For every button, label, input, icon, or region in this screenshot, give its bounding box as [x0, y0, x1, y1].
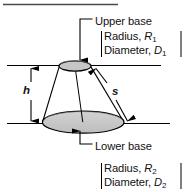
- upper-radius-spec: Radius, R1: [104, 30, 166, 44]
- upper-base-label: Upper base: [95, 15, 152, 28]
- slant-height-label: s: [112, 85, 118, 98]
- lower-diameter-spec: Diameter, D2: [104, 176, 166, 190]
- lower-base-ellipse: [42, 111, 124, 133]
- lower-radius-spec: Radius, R2: [104, 162, 166, 176]
- upper-base-ellipse: [59, 61, 91, 72]
- upper-diameter-spec: Diameter, D1: [104, 44, 166, 58]
- height-label: h: [23, 84, 30, 97]
- lower-diameter-symbol: D: [154, 176, 162, 188]
- upper-diameter-subscript: 1: [162, 49, 166, 58]
- upper-diameter-symbol: D: [154, 44, 162, 56]
- lower-diameter-subscript: 2: [162, 181, 166, 190]
- upper-radius-text: Radius,: [104, 30, 141, 42]
- upper-radius-subscript: 1: [152, 35, 156, 44]
- frustum-figure: Upper base Lower base Radius, R1 Diamete…: [0, 0, 190, 192]
- lower-base-label: Lower base: [95, 140, 152, 153]
- upper-base-specs: Radius, R1 Diameter, D1: [104, 30, 166, 57]
- lower-base-specs: Radius, R2 Diameter, D2: [104, 162, 166, 189]
- lower-radius-text: Radius,: [104, 162, 141, 174]
- upper-base-leader: [80, 19, 93, 60]
- lower-diameter-text: Diameter,: [104, 176, 151, 188]
- lower-radius-subscript: 2: [152, 167, 156, 176]
- upper-diameter-text: Diameter,: [104, 44, 151, 56]
